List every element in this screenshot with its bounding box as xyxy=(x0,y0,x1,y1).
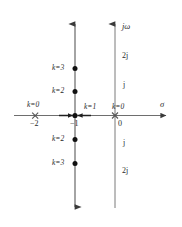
gain-label-k3-lower: k=3 xyxy=(52,159,64,167)
imag-label-2j-upper: 2j xyxy=(122,52,128,60)
tick-label-zero: 0 xyxy=(118,120,122,128)
tick-label-minus-1: −1 xyxy=(70,120,79,128)
root-locus-figure: k=0 k=1 k=0 k=3 k=2 k=2 k=3 −2 −1 0 2j j… xyxy=(0,0,182,227)
locus-dot-k3-upper xyxy=(73,66,78,71)
gain-label-k2-upper: k=2 xyxy=(52,87,64,95)
locus-dot-k2-lower xyxy=(73,137,78,142)
imaginary-axis-label-jomega: jω xyxy=(122,22,130,31)
plot-canvas xyxy=(0,0,182,227)
gain-label-k0-left: k=0 xyxy=(27,101,39,109)
locus-dot-k3-lower xyxy=(73,161,78,166)
tick-label-minus-2: −2 xyxy=(30,120,39,128)
gain-label-k1-mid: k=1 xyxy=(84,103,96,111)
imag-label-j-upper: j xyxy=(123,81,125,89)
locus-dot-breakaway-k1 xyxy=(72,113,77,118)
imag-label-j-lower: j xyxy=(123,139,125,147)
imag-label-2j-lower: 2j xyxy=(122,167,128,175)
gain-label-k3-upper: k=3 xyxy=(52,64,64,72)
real-axis-label-sigma: σ xyxy=(160,100,164,109)
gain-label-k0-origin: k=0 xyxy=(112,103,124,111)
locus-dot-k2-upper xyxy=(73,89,78,94)
gain-label-k2-lower: k=2 xyxy=(52,135,64,143)
